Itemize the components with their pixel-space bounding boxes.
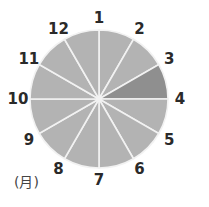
month-label-1: 1 [94,9,104,27]
month-label-6: 6 [134,160,144,178]
month-label-9: 9 [24,131,34,149]
month-label-10: 10 [8,90,29,108]
unit-label: (月) [14,174,39,190]
month-label-11: 11 [18,50,39,68]
month-clock-diagram: 123456789101112 (月) [0,0,209,207]
month-label-5: 5 [164,131,174,149]
month-label-4: 4 [175,90,185,108]
month-label-2: 2 [134,20,144,38]
segments [30,30,168,168]
month-label-3: 3 [164,50,174,68]
month-label-8: 8 [53,160,63,178]
month-label-12: 12 [48,20,69,38]
month-label-7: 7 [94,171,104,189]
